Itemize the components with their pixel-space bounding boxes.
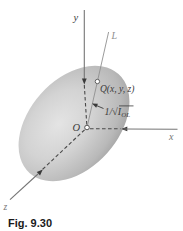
point-q-label: Q(x, y, z) [100, 84, 134, 95]
ellipsoid-of-inertia-figure: y L x z O Q(x, y, z) 1/√IOL Fig. 9.30 [0, 0, 183, 231]
z-axis-line [10, 174, 38, 200]
z-axis-label: z [3, 202, 8, 212]
origin-marker [85, 125, 90, 130]
y-axis-label: y [73, 12, 79, 23]
figure-9-30: y L x z O Q(x, y, z) 1/√IOL Fig. 9.30 [0, 0, 183, 231]
moment-of-inertia-subscript: OL [121, 111, 130, 119]
line-l-label: L [111, 30, 118, 41]
origin-label: O [73, 122, 81, 133]
point-q-marker [95, 79, 99, 83]
figure-caption: Fig. 9.30 [8, 217, 52, 229]
x-axis-label: x [168, 131, 174, 142]
